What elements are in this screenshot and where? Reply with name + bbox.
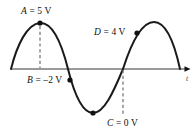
label-point-c: C = 0 V	[107, 119, 138, 129]
label-c-value: 0 V	[124, 118, 138, 128]
label-point-a: A = 5 V	[21, 7, 51, 17]
label-b-equals: =	[33, 75, 43, 85]
data-point-d	[134, 30, 139, 35]
label-point-b: B = –2 V	[27, 76, 62, 86]
data-point-trough	[90, 110, 95, 115]
label-c-equals: =	[113, 118, 123, 128]
label-point-d: D = 4 V	[94, 28, 126, 38]
label-b-value: –2 V	[43, 75, 62, 85]
label-d-value: 4 V	[111, 27, 125, 37]
label-d-equals: =	[101, 27, 111, 37]
waveform-plot	[0, 0, 193, 134]
data-point-b	[67, 77, 72, 82]
voltage-waveform-figure: A = 5 V B = –2 V C = 0 V D = 4 V t	[0, 0, 193, 134]
label-a-equals: =	[27, 6, 37, 16]
label-a-value: 5 V	[37, 6, 51, 16]
data-point-a	[37, 20, 42, 25]
time-axis-arrow-icon	[185, 66, 191, 72]
axis-label-time: t	[186, 74, 188, 83]
label-d-name: D	[94, 27, 101, 37]
